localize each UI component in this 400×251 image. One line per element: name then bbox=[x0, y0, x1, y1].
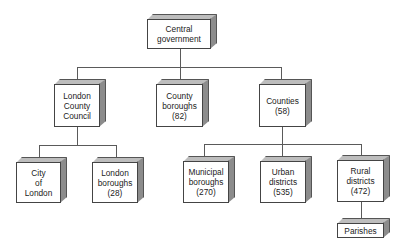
connector-london-bar bbox=[39, 145, 117, 146]
node-label: London boroughs (28) bbox=[98, 168, 133, 198]
node-label: Central government bbox=[157, 24, 201, 44]
connector-lcc-down bbox=[77, 127, 78, 145]
connector-counties-bar bbox=[204, 144, 362, 145]
node-label: Counties (58) bbox=[266, 96, 299, 116]
node-label: County boroughs (82) bbox=[162, 91, 197, 121]
node-label: Urban districts (535) bbox=[269, 167, 297, 197]
node-label: City of London bbox=[25, 168, 53, 198]
node-label: London County Council bbox=[63, 91, 91, 121]
node-label: Rural districts (472) bbox=[346, 166, 374, 196]
node-label: Parishes bbox=[344, 226, 376, 236]
hierarchy-diagram: Central government London County Council… bbox=[0, 0, 400, 251]
connector-central-down bbox=[180, 49, 181, 67]
connector-counties-down bbox=[282, 127, 283, 144]
node-label: Municipal boroughs (270) bbox=[188, 167, 223, 197]
